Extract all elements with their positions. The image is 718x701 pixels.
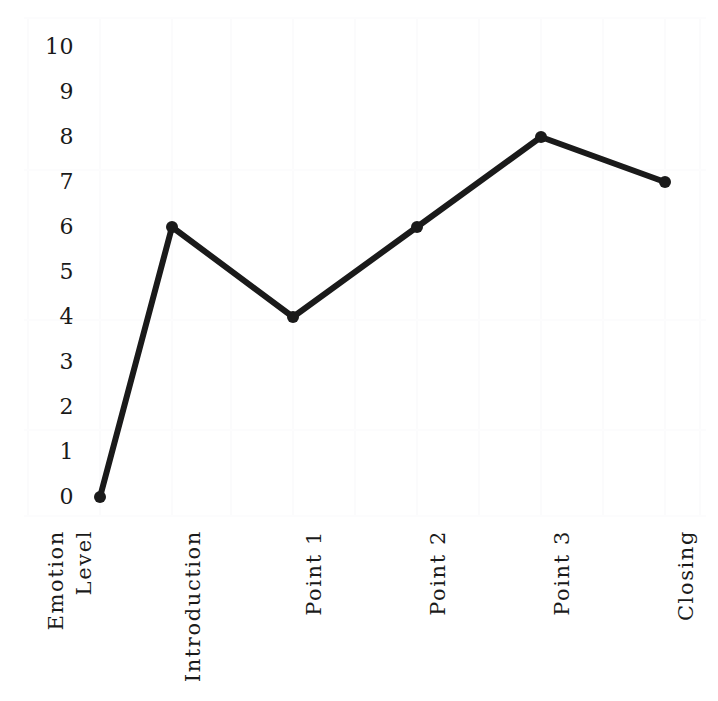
x-axis-tick-label: Closing — [676, 530, 697, 621]
y-axis-tick-label: 5 — [26, 261, 74, 283]
x-axis-tick-label: Point 1 — [304, 530, 325, 616]
emotion-level-line — [100, 137, 665, 497]
data-point-markers-group — [94, 131, 671, 503]
y-axis-tick-label: 3 — [26, 351, 74, 373]
data-point-marker — [659, 176, 671, 188]
line-chart-plot — [0, 0, 718, 701]
y-axis-title-line: Level — [74, 530, 95, 595]
y-axis-tick-label: 7 — [26, 171, 74, 193]
x-axis-tick-label: Introduction — [183, 530, 204, 682]
data-point-marker — [94, 491, 106, 503]
y-axis-tick-label: 8 — [26, 126, 74, 148]
y-axis-tick-label: 4 — [26, 306, 74, 328]
data-point-marker — [411, 221, 423, 233]
y-axis-tick-label: 9 — [26, 81, 74, 103]
data-point-marker — [287, 311, 299, 323]
y-axis-tick-label: 2 — [26, 396, 74, 418]
y-axis-tick-label: 10 — [26, 36, 74, 58]
y-axis-title-line: Emotion — [46, 530, 67, 630]
data-point-marker — [166, 221, 178, 233]
data-point-marker — [535, 131, 547, 143]
chart-container: 012345678910 EmotionLevel IntroductionPo… — [0, 0, 718, 701]
y-axis-tick-label: 1 — [26, 441, 74, 463]
y-axis-tick-label: 6 — [26, 216, 74, 238]
x-axis-tick-label: Point 2 — [428, 530, 449, 616]
y-axis-tick-label: 0 — [26, 486, 74, 508]
x-axis-tick-label: Point 3 — [552, 530, 573, 616]
